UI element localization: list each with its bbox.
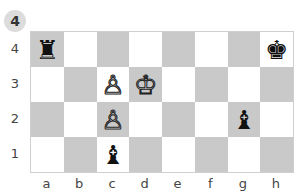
square-a1[interactable] [31,137,64,172]
puzzle-number-badge: 4 [4,10,26,32]
rank-label-4: 4 [8,41,22,56]
square-d1[interactable] [129,137,162,172]
rank-label-3: 3 [8,76,22,91]
white-king-icon[interactable]: ♔ [134,72,157,98]
square-c1[interactable]: ♝ [97,137,130,172]
square-b2[interactable] [64,102,97,137]
file-label-e: e [161,176,194,191]
square-h2[interactable] [260,102,293,137]
square-f4[interactable] [195,32,228,67]
square-h3[interactable] [260,67,293,102]
chess-board[interactable]: ♜♚♙♔♙♝♝ [30,31,294,173]
black-king-icon[interactable]: ♚ [265,37,288,63]
square-g2[interactable]: ♝ [228,102,261,137]
black-bishop-icon[interactable]: ♝ [101,142,124,168]
square-d4[interactable] [129,32,162,67]
file-label-c: c [96,176,129,191]
file-label-g: g [227,176,260,191]
white-pawn-icon[interactable]: ♙ [101,107,124,133]
rank-label-1: 1 [8,146,22,161]
square-a4[interactable]: ♜ [31,32,64,67]
square-e4[interactable] [162,32,195,67]
square-g4[interactable] [228,32,261,67]
rank-label-2: 2 [8,111,22,126]
square-g3[interactable] [228,67,261,102]
black-rook-icon[interactable]: ♜ [36,37,59,63]
square-b1[interactable] [64,137,97,172]
file-label-d: d [128,176,161,191]
square-f2[interactable] [195,102,228,137]
square-h4[interactable]: ♚ [260,32,293,67]
square-e3[interactable] [162,67,195,102]
file-label-h: h [259,176,292,191]
square-f1[interactable] [195,137,228,172]
square-c2[interactable]: ♙ [97,102,130,137]
square-f3[interactable] [195,67,228,102]
square-d2[interactable] [129,102,162,137]
square-d3[interactable]: ♔ [129,67,162,102]
file-label-b: b [63,176,96,191]
square-b3[interactable] [64,67,97,102]
file-label-a: a [30,176,63,191]
square-c4[interactable] [97,32,130,67]
square-a3[interactable] [31,67,64,102]
square-a2[interactable] [31,102,64,137]
square-b4[interactable] [64,32,97,67]
square-h1[interactable] [260,137,293,172]
file-label-f: f [194,176,227,191]
square-e2[interactable] [162,102,195,137]
square-e1[interactable] [162,137,195,172]
black-bishop-icon[interactable]: ♝ [232,107,255,133]
square-c3[interactable]: ♙ [97,67,130,102]
white-pawn-icon[interactable]: ♙ [101,72,124,98]
square-g1[interactable] [228,137,261,172]
